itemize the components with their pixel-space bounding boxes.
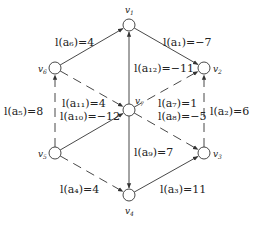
node-label-v3: v3 — [213, 149, 222, 160]
node-v1 — [123, 19, 135, 31]
edge-label-a5: l(a₅)=8 — [4, 105, 43, 118]
graph-canvas: v1v2v3v4v5v6v7 l(a₁)=−7l(a₂)=6l(a₃)=11l(… — [0, 0, 256, 228]
node-v2 — [198, 62, 210, 74]
edge-label-a1: l(a₁)=−7 — [163, 36, 212, 49]
edge-label-a9: l(a₉)=7 — [134, 146, 173, 159]
node-v4 — [123, 189, 135, 201]
edge-label-a12: l(a₁₂)=−11 — [134, 62, 194, 75]
edge-label-a2: l(a₂)=6 — [210, 105, 249, 118]
edge-label-a11: l(a₁₁)=4 — [62, 97, 106, 110]
edge-label-a10: l(a₁₀)=−12 — [60, 110, 120, 123]
edge-label-a7: l(a₇)=1 — [158, 97, 197, 110]
node-v7 — [123, 104, 135, 116]
node-v5 — [49, 147, 61, 159]
node-label-v7: v7 — [135, 96, 144, 107]
node-label-v4: v4 — [125, 206, 134, 217]
edge-label-a3: l(a₃)=11 — [160, 183, 206, 196]
node-label-v1: v1 — [125, 5, 134, 16]
edge-label-a4: l(a₄)=4 — [60, 183, 99, 196]
node-label-v6: v6 — [38, 64, 47, 75]
node-label-v2: v2 — [213, 64, 222, 75]
graph-diagram: v1v2v3v4v5v6v7 l(a₁)=−7l(a₂)=6l(a₃)=11l(… — [0, 0, 256, 228]
node-label-v5: v5 — [38, 149, 47, 160]
node-v3 — [198, 147, 210, 159]
edge-label-a8: l(a₈)=−5 — [158, 110, 207, 123]
edge-label-a6: l(a₆)=4 — [55, 36, 94, 49]
node-v6 — [49, 62, 61, 74]
